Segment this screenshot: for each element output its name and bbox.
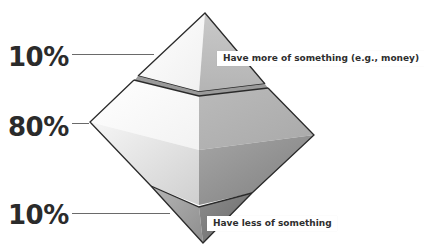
percent-label-middle: 80% xyxy=(8,114,69,140)
percent-label-bottom: 10% xyxy=(8,202,69,228)
leader-line-top xyxy=(72,54,154,55)
leader-line-middle xyxy=(72,123,89,124)
leader-line-bottom xyxy=(72,213,170,214)
callout-have-less: Have less of something xyxy=(207,216,337,231)
percent-label-top: 10% xyxy=(8,44,69,70)
callout-have-more: Have more of something (e.g., money) xyxy=(217,51,424,66)
tier-middle xyxy=(90,80,314,205)
